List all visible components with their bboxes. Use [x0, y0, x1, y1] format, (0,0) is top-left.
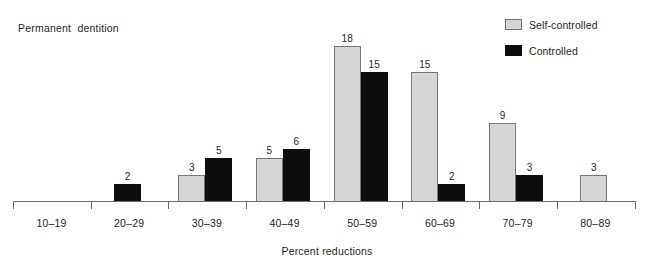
bar-value-label: 2 — [114, 171, 141, 182]
bar-column: 3 — [178, 19, 205, 201]
x-axis-category-label: 60–69 — [402, 217, 479, 229]
bar-controlled — [205, 158, 232, 201]
x-axis-tick — [246, 201, 247, 209]
chart-title: Permanent dentition — [18, 22, 119, 34]
bar-value-label: 15 — [361, 59, 388, 70]
bar-value-label: 5 — [256, 145, 283, 156]
bar-column: 2 — [114, 19, 141, 201]
bar-controlled — [516, 175, 543, 201]
x-axis-tick — [168, 201, 169, 209]
x-axis-category-label: 70–79 — [479, 217, 556, 229]
x-axis-label: Percent reductions — [0, 245, 654, 257]
x-axis-tick — [13, 201, 14, 209]
bar-column: 15 — [411, 19, 438, 201]
bar-self-controlled — [411, 72, 438, 201]
bar-controlled — [283, 149, 310, 201]
bar-column: 3 — [516, 19, 543, 201]
bar-value-label: 2 — [438, 171, 465, 182]
bar-value-label: 3 — [580, 162, 607, 173]
bar-group: 56 — [256, 19, 310, 201]
bar-column: 5 — [205, 19, 232, 201]
x-axis-category-label: 30–39 — [168, 217, 245, 229]
chart-figure: Permanent dentition Self-controlled Cont… — [0, 0, 654, 265]
bar-controlled — [114, 184, 141, 201]
x-axis-category-label: 10–19 — [13, 217, 90, 229]
x-axis-category-label: 50–59 — [324, 217, 401, 229]
bar-value-label: 9 — [489, 110, 516, 121]
bar-value-label: 15 — [411, 59, 438, 70]
bar-column: 3 — [580, 19, 607, 201]
bar-controlled — [438, 184, 465, 201]
bar-group: 35 — [178, 19, 232, 201]
x-axis-tick — [635, 201, 636, 209]
bar-group: 93 — [489, 19, 543, 201]
bar-group: 2 — [114, 19, 141, 201]
x-axis-category-label: 20–29 — [91, 217, 168, 229]
bar-column: 9 — [489, 19, 516, 201]
bar-column: 2 — [438, 19, 465, 201]
x-axis-tick — [91, 201, 92, 209]
bar-column: 6 — [283, 19, 310, 201]
bar-value-label: 3 — [516, 162, 543, 173]
bar-value-label: 6 — [283, 136, 310, 147]
x-axis-category-label: 40–49 — [246, 217, 323, 229]
x-axis-tick — [479, 201, 480, 209]
bar-column: 18 — [334, 19, 361, 201]
bar-self-controlled — [256, 158, 283, 201]
bar-column: 15 — [361, 19, 388, 201]
bar-self-controlled — [334, 46, 361, 201]
bar-value-label: 3 — [178, 162, 205, 173]
bar-column: 5 — [256, 19, 283, 201]
bar-self-controlled — [178, 175, 205, 201]
x-axis-tick — [402, 201, 403, 209]
x-axis-category-label: 80–89 — [557, 217, 634, 229]
x-axis-tick — [557, 201, 558, 209]
bar-group: 3 — [580, 19, 607, 201]
bar-controlled — [361, 72, 388, 201]
bar-value-label: 5 — [205, 145, 232, 156]
bar-value-label: 18 — [334, 33, 361, 44]
bar-self-controlled — [489, 123, 516, 201]
bar-group: 1815 — [334, 19, 388, 201]
bar-group: 152 — [411, 19, 465, 201]
x-axis-tick — [324, 201, 325, 209]
bar-self-controlled — [580, 175, 607, 201]
